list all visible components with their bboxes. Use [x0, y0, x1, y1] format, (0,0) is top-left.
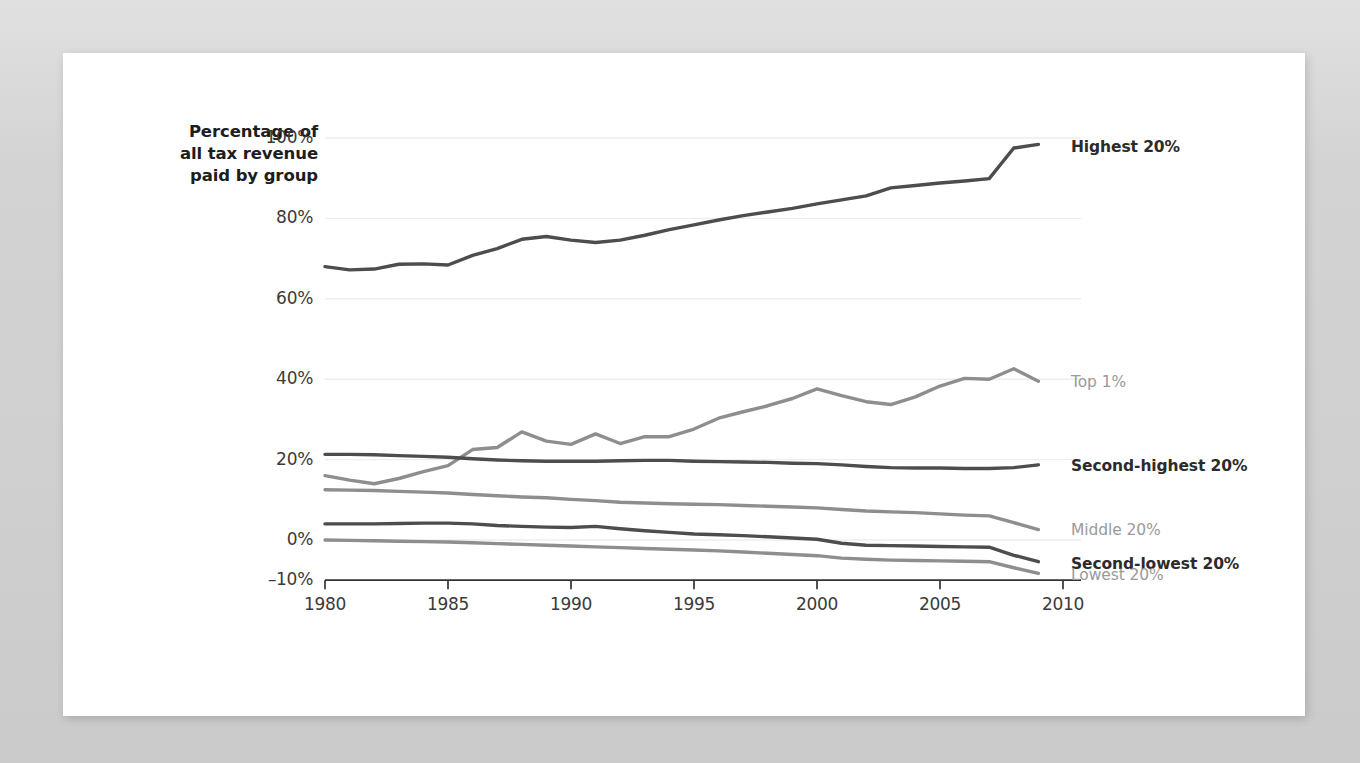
x-tick-label: 1990 [536, 594, 606, 614]
x-tick-label: 1985 [413, 594, 483, 614]
chart-card: Percentage of all tax revenue paid by gr… [63, 53, 1305, 716]
y-tick-label: 60% [233, 288, 313, 308]
x-tick-label: 2005 [905, 594, 975, 614]
series-line [325, 454, 1038, 468]
series-label-second-highest-20: Second-highest 20% [1071, 457, 1247, 475]
y-tick-label: –10% [233, 569, 313, 589]
series-label-lowest-20: Lowest 20% [1071, 566, 1164, 584]
chart-figure: Percentage of all tax revenue paid by gr… [63, 53, 1305, 716]
x-tick-label: 2010 [1028, 594, 1098, 614]
gridlines [325, 138, 1081, 540]
y-tick-label: 0% [233, 529, 313, 549]
x-tick-label: 1995 [659, 594, 729, 614]
series-label-highest-20: Highest 20% [1071, 138, 1180, 156]
series-line [325, 144, 1038, 269]
y-tick-label: 40% [233, 368, 313, 388]
x-tick-label: 2000 [782, 594, 852, 614]
y-tick-label: 80% [233, 207, 313, 227]
series-label-middle-20: Middle 20% [1071, 521, 1161, 539]
y-tick-label: 20% [233, 449, 313, 469]
series-label-top-1: Top 1% [1071, 373, 1126, 391]
x-tick-label: 1980 [290, 594, 360, 614]
y-tick-label: 100% [233, 127, 313, 147]
series-lines [325, 144, 1038, 573]
x-axis [325, 580, 1081, 589]
